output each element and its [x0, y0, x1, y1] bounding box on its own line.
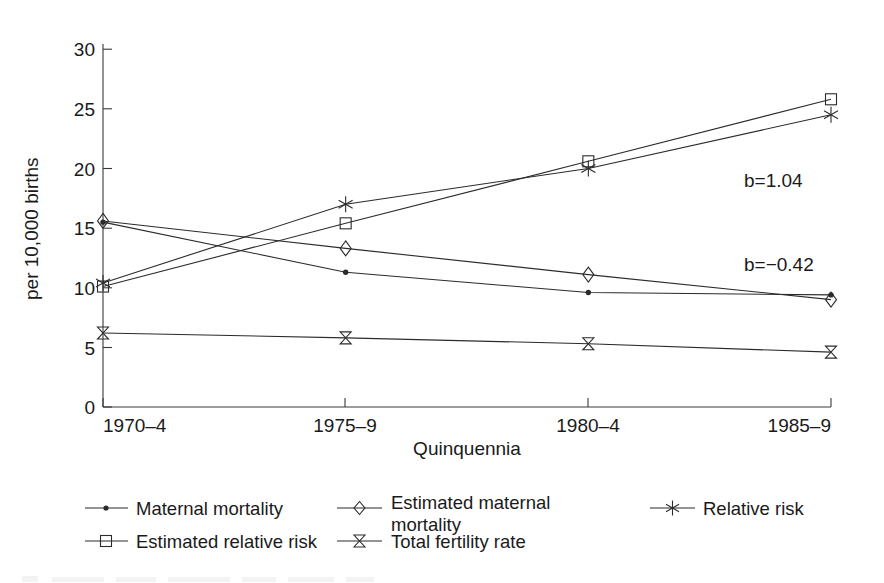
series-estimated-maternal-mortality: [98, 213, 837, 307]
y-tick-label-10: 10: [74, 278, 95, 299]
dot-marker-icon: [343, 270, 348, 275]
x-axis-title: Quinquennia: [413, 438, 521, 459]
asterisk-marker-icon: [339, 196, 353, 212]
legend-label-estimated-maternal-mortality: Estimated maternal: [391, 492, 550, 513]
y-tick-label-25: 25: [74, 99, 95, 120]
y-tick-label-15: 15: [74, 218, 95, 239]
annotation-slope-positive: b=1.04: [744, 170, 803, 191]
legend: Maternal mortality Estimated maternal mo…: [85, 492, 804, 552]
legend-item-estimated-maternal-mortality[interactable]: Estimated maternal mortality: [337, 492, 550, 535]
dot-marker-icon: [103, 505, 108, 510]
series-line: [103, 333, 831, 352]
annotation-slope-negative: b=−0.42: [744, 254, 814, 275]
series-total-fertility-rate: [98, 327, 837, 358]
x-axis-ticks: 1970–4 1975–9 1980–4 1985–9: [103, 398, 831, 436]
annotations: b=1.04 b=−0.42: [744, 170, 814, 275]
x-tick-label-1975-9: 1975–9: [313, 415, 376, 436]
series-layer: [96, 94, 838, 358]
axes: [103, 44, 831, 407]
y-axis-title: per 10,000 births: [21, 157, 42, 300]
x-tick-label-1985-9: 1985–9: [768, 415, 831, 436]
legend-item-relative-risk[interactable]: Relative risk: [650, 498, 804, 519]
y-tick-label-0: 0: [84, 397, 95, 418]
series-relative-risk: [96, 107, 838, 291]
caption-strip: [22, 576, 374, 582]
series-line: [103, 99, 831, 286]
legend-label-relative-risk: Relative risk: [703, 498, 804, 519]
figure-container: 30 25 20 15 10 5 0 per 10,000 births 197…: [0, 0, 884, 583]
dot-marker-icon: [100, 219, 105, 224]
x-tick-label-1980-4: 1980–4: [556, 415, 620, 436]
asterisk-marker-icon: [96, 275, 110, 291]
line-chart: 30 25 20 15 10 5 0 per 10,000 births 197…: [0, 0, 884, 583]
legend-item-maternal-mortality[interactable]: Maternal mortality: [85, 498, 284, 519]
y-tick-label-20: 20: [74, 159, 95, 180]
dot-marker-icon: [586, 290, 591, 295]
series-line: [103, 221, 831, 300]
legend-item-total-fertility-rate[interactable]: Total fertility rate: [337, 531, 526, 552]
y-tick-label-30: 30: [74, 39, 95, 60]
asterisk-marker-icon: [824, 107, 838, 123]
x-tick-label-1970-4: 1970–4: [103, 415, 167, 436]
legend-label-total-fertility-rate: Total fertility rate: [391, 531, 526, 552]
y-tick-label-5: 5: [84, 338, 95, 359]
y-axis-ticks: 30 25 20 15 10 5 0: [74, 39, 112, 418]
legend-label-estimated-relative-risk: Estimated relative risk: [136, 531, 318, 552]
legend-item-estimated-relative-risk[interactable]: Estimated relative risk: [85, 531, 318, 552]
series-estimated-relative-risk: [98, 94, 837, 292]
legend-label-maternal-mortality: Maternal mortality: [136, 498, 284, 519]
